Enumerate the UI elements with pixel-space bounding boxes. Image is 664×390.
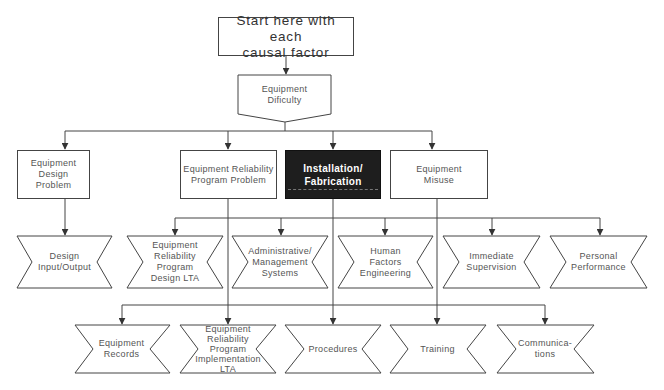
cause-label: Personal Performance (571, 251, 626, 273)
cause-reliability-program-implementation-lta: Equipment Reliability Program Implementa… (190, 323, 266, 375)
problem-equipment-reliability-program: Equipment Reliability Program Problem (180, 150, 277, 199)
cause-label: Equipment Records (99, 338, 145, 360)
cause-label: Immediate Supervision (466, 251, 516, 273)
problem-equipment-design: Equipment Design Problem (17, 150, 90, 199)
problem-equipment-misuse: Equipment Misuse (390, 150, 488, 199)
cause-label: Equipment Reliability Program Implementa… (195, 324, 261, 374)
category-label: Equipment Dificulty (262, 84, 308, 106)
cause-equipment-records: Equipment Records (93, 325, 150, 373)
cause-reliability-program-design-lta: Equipment Reliability Program Design LTA (143, 236, 207, 288)
cause-training: Training (408, 325, 467, 373)
cause-human-factors-engineering: Human Factors Engineering (354, 236, 417, 288)
cause-immediate-supervision: Immediate Supervision (459, 236, 524, 288)
problem-label: Equipment Reliability Program Problem (183, 164, 273, 186)
problem-installation-fabrication: Installation/ Fabrication (285, 150, 381, 199)
cause-label: Equipment Reliability Program Design LTA (151, 240, 200, 284)
cause-design-input-output: Design Input/Output (32, 236, 97, 288)
category-equipment-difficulty: Equipment Dificulty (238, 75, 331, 115)
start-node: Start here with each causal factor (218, 17, 354, 56)
start-node-label: Start here with each causal factor (219, 13, 353, 61)
cause-label: Training (420, 344, 455, 355)
cause-label: Design Input/Output (38, 251, 91, 273)
problem-label: Equipment Misuse (416, 164, 462, 186)
problem-label: Installation/ Fabrication (303, 162, 362, 188)
cause-personal-performance: Personal Performance (566, 236, 631, 288)
cause-label: Administrative/ Management Systems (248, 246, 312, 279)
cause-label: Human Factors Engineering (360, 246, 411, 279)
cause-administrative-management-systems: Administrative/ Management Systems (248, 236, 312, 288)
cause-label: Procedures (308, 344, 357, 355)
cause-communications: Communica- tions (516, 325, 574, 373)
problem-label: Equipment Design Problem (18, 158, 89, 191)
cause-label: Communica- tions (518, 338, 572, 360)
cause-procedures: Procedures (304, 325, 362, 373)
